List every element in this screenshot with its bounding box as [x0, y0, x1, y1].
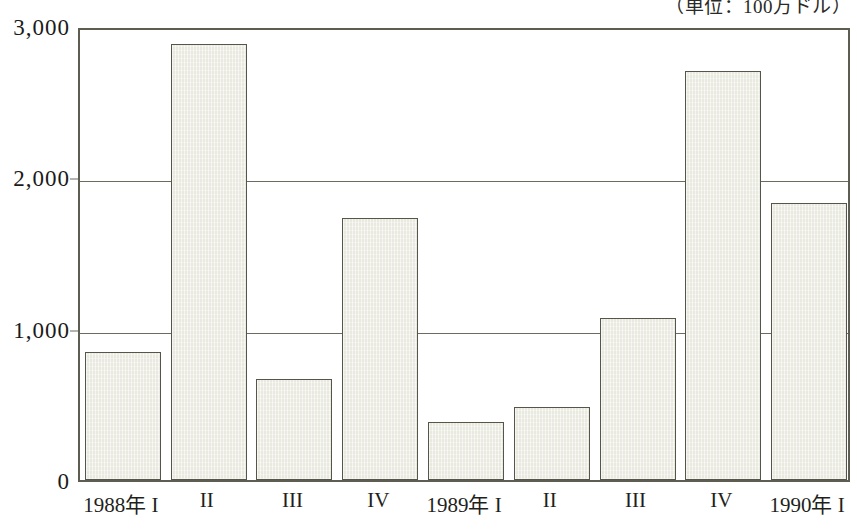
y-tick-mark-2000 — [70, 179, 78, 180]
x-tick-label: IV — [367, 488, 389, 513]
bar — [256, 379, 332, 480]
x-tick-label: 1989年 I — [426, 488, 501, 518]
x-tick-label: III — [282, 488, 303, 513]
y-tick-label-2000: 2,000 — [0, 166, 70, 192]
y-tick-label-3000: 3,000 — [0, 15, 70, 41]
bar — [771, 203, 847, 480]
y-tick-mark-1000 — [70, 330, 78, 331]
x-tick-label: 1990年 I — [769, 488, 844, 518]
bar — [685, 71, 761, 480]
y-tick-label-1000: 1,000 — [0, 318, 70, 344]
bar — [342, 218, 418, 480]
x-tick-label: II — [200, 488, 214, 513]
x-tick-label: II — [543, 488, 557, 513]
x-axis-labels: 1988年 IIIIIIIV1989年 IIIIIIIV1990年 I — [78, 488, 850, 528]
bar — [85, 352, 161, 480]
bar — [171, 44, 247, 480]
unit-caption: （単位：100万ドル） — [665, 0, 851, 18]
bar — [600, 318, 676, 480]
plot-area — [78, 28, 850, 482]
bar — [428, 422, 504, 480]
bar — [514, 407, 590, 480]
x-tick-label: III — [625, 488, 646, 513]
bar-chart: （単位：100万ドル） 01,0002,0003,000 1988年 IIIII… — [0, 0, 857, 529]
x-tick-label: 1988年 I — [83, 488, 158, 518]
x-tick-label: IV — [710, 488, 732, 513]
y-tick-label-0: 0 — [0, 469, 70, 495]
